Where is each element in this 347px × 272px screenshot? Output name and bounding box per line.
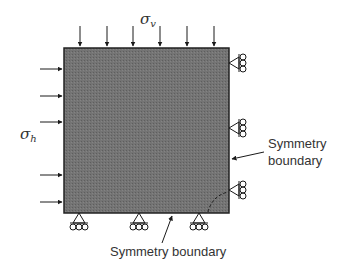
roller-support-icon [229, 119, 246, 137]
symmetry-boundary-bottom-label: Symmetry boundary [110, 244, 227, 259]
symmetry-boundary-right-label: Symmetry [268, 136, 327, 151]
sigma-h-label: σh [20, 125, 37, 144]
horizontal-stress-arrows [40, 69, 62, 202]
pointer-bottom [162, 216, 172, 243]
roller-support-icon [190, 213, 208, 230]
sigma-v-label: σv [140, 10, 156, 29]
pointer-right [232, 152, 264, 159]
roller-support-icon [130, 213, 148, 230]
right-roller-supports [229, 54, 246, 199]
roller-support-icon [70, 213, 88, 230]
soil-block [64, 48, 229, 213]
roller-support-icon [229, 54, 246, 72]
symmetry-boundary-right-label-2: boundary [268, 153, 323, 168]
roller-support-icon [229, 181, 246, 199]
vertical-stress-arrows [80, 26, 214, 46]
bottom-roller-supports [70, 213, 208, 230]
boundary-condition-diagram: σv σh [0, 0, 347, 272]
